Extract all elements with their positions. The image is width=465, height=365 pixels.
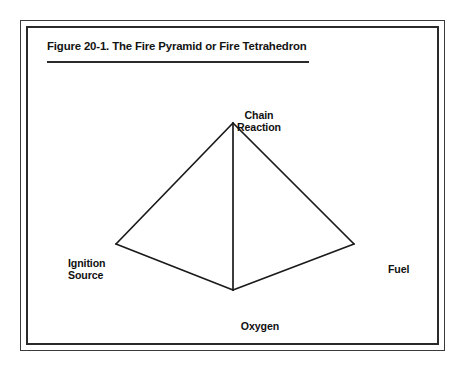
edge-fuel-to-oxygen bbox=[233, 244, 354, 290]
vertex-label-chain-reaction: Chain Reaction bbox=[211, 109, 307, 134]
edge-apex-to-ignition bbox=[116, 123, 233, 244]
tetrahedron-edges bbox=[28, 28, 443, 349]
edge-apex-to-fuel bbox=[233, 123, 354, 244]
vertex-label-fuel: Fuel bbox=[388, 263, 409, 275]
vertex-label-oxygen: Oxygen bbox=[214, 320, 306, 332]
vertex-label-ignition-source: Ignition Source bbox=[68, 257, 140, 282]
figure-frame-outer: Figure 20-1. The Fire Pyramid or Fire Te… bbox=[20, 20, 445, 351]
figure-frame-inner: Figure 20-1. The Fire Pyramid or Fire Te… bbox=[26, 26, 439, 345]
fire-tetrahedron-diagram bbox=[28, 28, 437, 343]
